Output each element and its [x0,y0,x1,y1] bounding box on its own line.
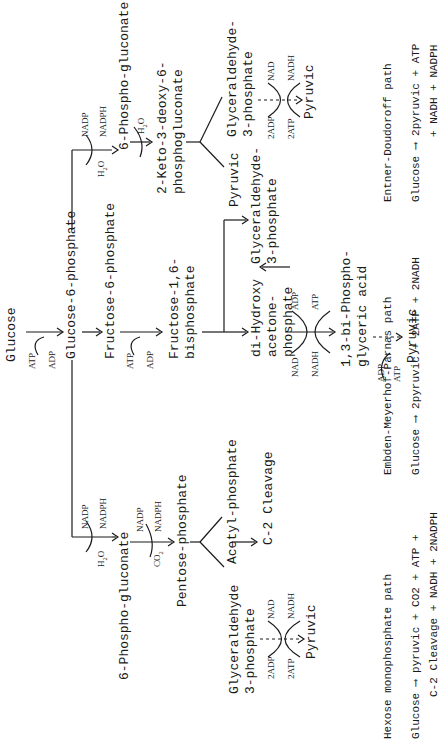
hmp-nadh-label: NADH [286,593,296,619]
ed-h2o-label: H2O [96,161,110,177]
emp-nadh-label: NADH [310,351,320,377]
ed-pyruvic-label-1: Pyruvic [228,152,242,207]
kdpg-label-2: phosphogluconate [172,69,186,194]
ed-nadp-label: NADP [80,112,90,137]
hmp-nad-label: NAD [266,600,276,620]
ed-equation-2: + NADH + NADPH [428,45,441,137]
atp-label: ATP [27,353,37,369]
hmp-equation-2: C-2 Cleavage + NADH + 2NADPH [428,512,441,697]
hmp-pyruvic-label: Pyruvic [305,604,319,659]
hmp-nadph2-label: NADPH [153,501,163,532]
ed-adp-label: 2ADP [266,116,276,139]
emp-nad-label: NAD [290,358,300,378]
bpg-label-1: 1,3-bi-Phospho- [340,250,354,367]
hmp-nadp2-label: NADP [135,507,145,532]
ed-h2o2-label: H2O [136,118,150,134]
hmp-nadp-label: NADP [80,504,90,529]
hmp-title: Hexose monophosphate path [382,574,395,739]
dhap-label-1: di-Hydroxy [250,279,264,357]
emp-atp-label: ATP [310,294,320,310]
bpg-label-2: glyceric acid [356,266,370,367]
ed-nad-label: NAD [266,62,276,82]
hmp-g3p-label-2: 3-phosphate [244,608,258,694]
adp-label-2: ADP [145,351,155,369]
c2-cleavage-label: C-2 Cleavage [262,451,276,545]
emp-adp-label: ADP [290,292,300,310]
ed-nadph-label: NADPH [98,106,108,137]
kdpg-label-1: 2-Keto-3-deoxy-6- [156,61,170,194]
fructose-bisphosphate-label-2: bisphosphate [184,265,198,359]
adp-label: ADP [47,351,57,369]
hmp-atp-label: 2ATP [286,658,296,679]
ed-nadh-label: NADH [286,55,296,81]
pentose-phosphate-label: Pentose-phosphate [176,474,190,607]
hmp-equation-1: Glucose ⟶ pyruvic + CO2 + ATP + [410,534,423,739]
ed-equation-1: Glucose ⟶ 2pyruvic + ATP [410,44,423,202]
hmp-adp-label: 2ADP [266,656,276,679]
ed-g3p-label-2: 3-phosphate [242,51,256,137]
emp-title: Embden-Meyerhof-Parnas path [382,297,395,475]
hmp-6-phosphogluconate-label: 6-Phospho-gluconate [118,532,132,680]
glucose-6-phosphate-label: Glucose-6-phosphate [65,211,79,359]
emp-g3p-label-1: Glyceraldehyde- [250,147,264,264]
hmp-nadph-label: NADPH [98,498,108,529]
fructose-bisphosphate-label-1: Fructose-1,6- [168,258,182,359]
emp-equation: Glucose ⟶ 2pyruvic + 2ATP + 2NADH [410,257,423,475]
emp-g3p-label-2: 3-phosphate [266,178,280,264]
ed-atp-label: 2ATP [286,118,296,139]
hmp-g3p-label-1: Glyceraldehyde [228,585,242,694]
atp-label-2: ATP [125,353,135,369]
ed-6-phosphogluconate-label: 6-Phospho-gluconate [118,2,132,150]
hmp-h2o-label: H2O [96,551,110,567]
glucose-label: Glucose [5,307,19,362]
dhap-label-2: acetone- [266,295,280,357]
ed-pyruvic-label-2: Pyruvic [303,64,317,119]
metabolic-pathways-diagram: Glucose ATP ADP Glucose-6-phosphate Fruc… [0,0,447,747]
fructose-6-phosphate-label: Fructose-6-phosphate [104,203,118,359]
ed-g3p-label-1: Glyceraldehyde- [226,20,240,137]
hmp-co2-label: CO2 [152,551,166,567]
acetyl-phosphate-label: Acetyl-phosphate [226,439,240,564]
ed-title: Entner-Doudoroff path [382,63,395,202]
